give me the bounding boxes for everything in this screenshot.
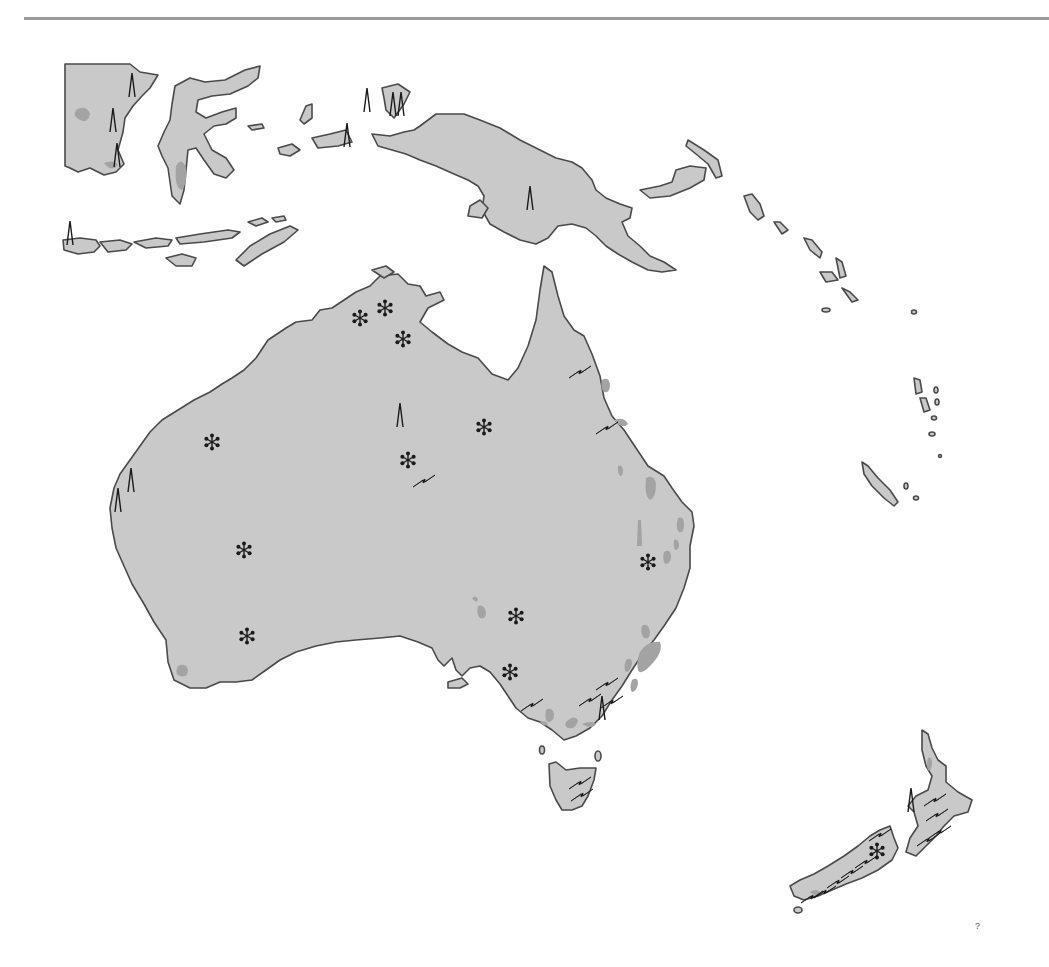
hydroelectric-bolt-icon [800, 890, 824, 904]
hydroelectric-bolt-icon [916, 833, 940, 847]
landmass-solomon-2 [774, 222, 788, 234]
landmass-solomon-1 [744, 194, 764, 220]
corner-mark: ? [975, 921, 980, 931]
patch-wa-southwest [176, 665, 188, 677]
oil-derrick-icon [397, 91, 405, 117]
hydroelectric-bolt-icon [595, 677, 619, 691]
hydroelectric-bolt-icon [570, 788, 594, 802]
landmass-solomon-3 [804, 238, 822, 258]
landmass-solomon-5 [836, 258, 846, 278]
mineral-asterisk-icon [238, 627, 256, 645]
hydroelectric-bolt-icon [868, 828, 892, 842]
mineral-asterisk-icon [475, 418, 493, 436]
mineral-asterisk-icon [399, 451, 417, 469]
mineral-asterisk-icon [507, 607, 525, 625]
islet-solomon-a [822, 308, 830, 312]
landmass-new-caledonia [862, 462, 898, 506]
landmass-islet-c [248, 124, 264, 130]
landmass-lesser-sunda-1 [100, 240, 132, 252]
landmass-timor [236, 226, 298, 266]
oil-derrick-icon [343, 122, 351, 148]
oil-derrick-icon [109, 107, 117, 133]
mineral-asterisk-icon [351, 309, 369, 327]
islet-king [540, 746, 545, 754]
oil-derrick-icon [389, 91, 397, 117]
islet-loyalty-b [914, 496, 919, 500]
mineral-asterisk-icon [203, 433, 221, 451]
oil-derrick-icon [526, 185, 534, 211]
oil-derrick-icon [114, 487, 122, 513]
islet-stewart [794, 907, 802, 913]
oil-derrick-icon [363, 87, 371, 113]
hydroelectric-bolt-icon [600, 695, 624, 709]
mineral-asterisk-icon [235, 541, 253, 559]
hydroelectric-bolt-icon [595, 421, 619, 435]
oil-derrick-icon [907, 787, 915, 813]
islet-vanuatu-e [939, 455, 942, 458]
mineral-asterisk-icon [376, 299, 394, 317]
landmass-islet-b [272, 216, 286, 222]
patch-nsw-1 [677, 518, 684, 533]
islet-vanuatu-d [929, 432, 935, 436]
landmass-new-guinea [372, 114, 676, 272]
landmass-kangaroo-island [448, 678, 468, 688]
hydroelectric-bolt-icon [412, 474, 436, 488]
hydroelectric-bolt-icon [925, 808, 949, 822]
landmass-solomon-6 [842, 288, 858, 302]
islet-solomon-b [912, 310, 917, 314]
hydroelectric-bolt-icon [568, 365, 592, 379]
landmass-islet-d [300, 104, 312, 124]
landmass-solomon-4 [820, 272, 838, 282]
islet-vanuatu-a [934, 387, 938, 393]
landmass-vanuatu-1 [914, 378, 922, 394]
landmass-sulawesi [158, 66, 260, 204]
hydroelectric-bolt-icon [923, 793, 947, 807]
oil-derrick-icon [66, 220, 74, 246]
islet-loyalty-a [904, 483, 908, 489]
mineral-asterisk-icon [394, 330, 412, 348]
landmass-buru [278, 144, 300, 156]
landmass-new-britain [640, 166, 706, 198]
islet-vanuatu-b [935, 399, 939, 405]
patch-nsw-6 [631, 679, 639, 692]
mineral-asterisk-icon [501, 663, 519, 681]
oceania-resource-map [0, 0, 1049, 967]
landmass-vanuatu-2 [920, 398, 930, 412]
landmass-lesser-sunda-2 [134, 238, 172, 248]
oil-derrick-icon [396, 402, 404, 428]
landmass-lesser-sunda-3 [176, 230, 240, 244]
hydroelectric-bolt-icon [520, 698, 544, 712]
landmass-islet-a [248, 218, 268, 226]
hydroelectric-bolt-icon [578, 693, 602, 707]
mineral-asterisk-icon [639, 553, 657, 571]
oil-derrick-icon [128, 72, 136, 98]
oil-derrick-icon [127, 467, 135, 493]
oil-derrick-icon [113, 142, 121, 168]
islet-vanuatu-c [932, 416, 937, 420]
landmass-sumba [166, 254, 196, 266]
islet-flinders [595, 751, 601, 761]
